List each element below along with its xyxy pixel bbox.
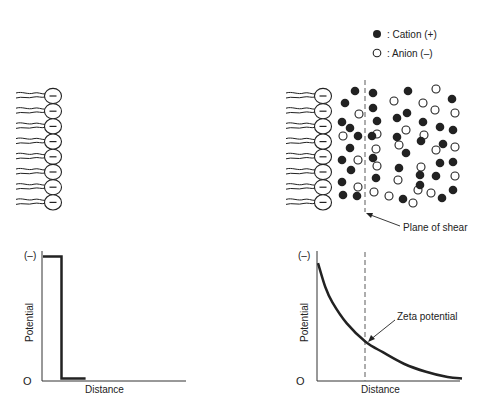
ion-field (338, 85, 459, 207)
left-x-axis-label: Distance (85, 384, 124, 395)
left-membrane (16, 88, 62, 210)
anion-icon (419, 99, 427, 107)
anion-icon (339, 132, 347, 140)
anion-icon (431, 106, 439, 114)
anion-icon (451, 143, 459, 151)
lipid-molecule (16, 88, 62, 103)
anion-icon (432, 146, 440, 154)
lipid-tail (16, 153, 45, 159)
lipid-tail (16, 168, 45, 174)
lipid-molecule (286, 164, 332, 179)
lipid-tail (16, 108, 45, 114)
cation-icon (354, 132, 363, 141)
anion-icon (390, 97, 398, 105)
lipid-tail (16, 138, 45, 144)
lipid-tail (286, 153, 315, 159)
cation-icon (353, 192, 362, 201)
lipid-molecule (286, 134, 332, 149)
shear-arrow (366, 213, 400, 226)
left-potential-curve (43, 257, 86, 379)
anion-icon (432, 85, 440, 93)
cation-icon (347, 166, 356, 175)
right-y-top-label: (–) (298, 250, 310, 261)
cation-icon (395, 164, 404, 173)
cation-icon (436, 123, 445, 132)
cation-icon (417, 137, 426, 146)
cation-icon (373, 117, 382, 126)
anion-icon (402, 126, 410, 134)
cation-icon (369, 89, 378, 98)
cation-icon (369, 104, 378, 113)
cation-icon (436, 159, 445, 168)
cation-icon (448, 95, 457, 104)
shear-plane-label: Plane of shear (403, 222, 468, 233)
right-potential-chart: (–) O Potential Distance Zeta potential (296, 250, 462, 395)
cation-icon (372, 174, 381, 183)
cation-icon (449, 158, 458, 167)
cation-icon (449, 186, 458, 195)
lipid-molecule (286, 180, 332, 195)
diagram-canvas: : Cation (+) : Anion (–) Plane of shear … (0, 0, 487, 404)
anion-icon (354, 183, 362, 191)
lipid-molecule (16, 104, 62, 119)
anion-icon (451, 109, 459, 117)
anion-icon (354, 156, 362, 164)
anion-legend-icon (373, 49, 381, 57)
anion-icon (372, 145, 380, 153)
lipid-molecule (286, 88, 332, 103)
left-potential-chart: (–) O Potential Distance (23, 250, 186, 395)
cation-icon (338, 156, 347, 165)
cation-icon (419, 118, 428, 127)
cation-icon (338, 118, 347, 127)
cation-icon (368, 132, 377, 141)
anion-icon (394, 176, 402, 184)
cation-icon (338, 178, 347, 187)
right-y-axis-label: Potential (299, 303, 310, 342)
lipid-tail (16, 184, 45, 190)
legend: : Cation (+) : Anion (–) (373, 29, 437, 59)
cation-icon (346, 144, 355, 153)
lipid-tail (286, 184, 315, 190)
anion-icon (395, 141, 403, 149)
lipid-tail (286, 92, 315, 98)
zeta-arrow (368, 320, 395, 342)
anion-legend-label: : Anion (–) (387, 48, 433, 59)
lipid-tail (286, 138, 315, 144)
lipid-tail (286, 168, 315, 174)
left-y-axis-label: Potential (24, 303, 35, 342)
lipid-tail (286, 123, 315, 129)
cation-icon (341, 99, 350, 108)
lipid-molecule (16, 195, 62, 210)
cation-icon (438, 194, 447, 203)
cation-icon (393, 114, 402, 123)
cation-icon (432, 172, 441, 181)
cation-icon (339, 191, 348, 200)
cation-icon (404, 87, 413, 96)
right-membrane (286, 88, 332, 210)
anion-icon (417, 163, 425, 171)
lipid-molecule (16, 164, 62, 179)
cation-icon (393, 133, 402, 142)
lipid-molecule (286, 195, 332, 210)
lipid-molecule (286, 104, 332, 119)
cation-icon (346, 124, 355, 133)
cation-icon (351, 87, 360, 96)
right-x-axis-label: Distance (361, 384, 400, 395)
cation-icon (416, 181, 425, 190)
cation-icon (369, 154, 378, 163)
lipid-molecule (16, 119, 62, 134)
lipid-tail (286, 199, 315, 205)
cation-icon (449, 126, 458, 135)
left-y-zero-label: O (23, 375, 32, 387)
lipid-molecule (16, 149, 62, 164)
cation-icon (402, 149, 411, 158)
cation-icon (399, 195, 408, 204)
anion-icon (355, 110, 363, 118)
anion-icon (409, 199, 417, 207)
lipid-tail (16, 199, 45, 205)
left-y-top-label: (–) (24, 250, 36, 261)
lipid-tail (286, 108, 315, 114)
lipid-molecule (286, 119, 332, 134)
lipid-molecule (16, 134, 62, 149)
anion-icon (373, 162, 381, 170)
